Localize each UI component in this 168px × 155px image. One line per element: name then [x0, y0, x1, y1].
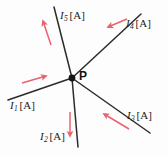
- current-unit-branch-1: [A]: [18, 99, 35, 111]
- junction-node-label: P: [79, 70, 87, 82]
- wire-branch-2: [72, 78, 78, 147]
- wire-branch-1: [8, 78, 72, 100]
- current-unit-branch-3: [A]: [135, 109, 152, 121]
- current-unit-branch-5: [A]: [68, 9, 85, 21]
- current-label-branch-2: I2[A]: [40, 131, 65, 144]
- current-label-branch-4: I4[A]: [126, 18, 151, 31]
- current-label-branch-1: I1[A]: [10, 100, 35, 113]
- junction-current-diagram: P I1[A] I2[A] I3[A] I4[A] I5[A]: [0, 0, 168, 155]
- current-arrow-branch-5: [43, 21, 51, 45]
- current-unit-branch-2: [A]: [48, 130, 65, 142]
- wire-branch-3: [72, 78, 150, 133]
- junction-node-dot: [69, 75, 76, 82]
- current-arrow-branch-1: [22, 76, 46, 83]
- current-arrow-branch-4: [108, 19, 127, 27]
- current-label-branch-3: I3[A]: [127, 110, 152, 123]
- current-label-branch-5: I5[A]: [60, 10, 85, 23]
- current-unit-branch-4: [A]: [134, 17, 151, 29]
